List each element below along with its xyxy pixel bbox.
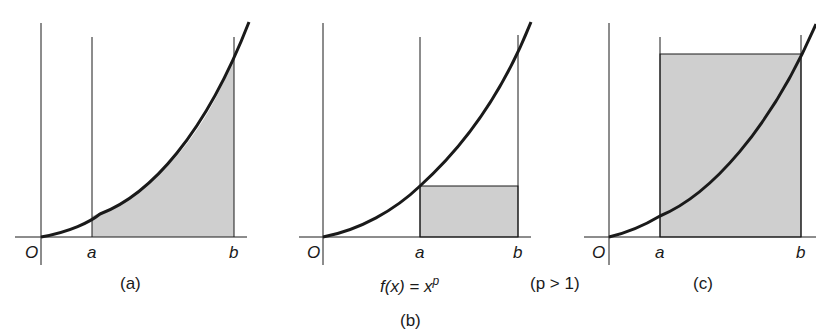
origin-label-c: O <box>592 244 605 261</box>
origin-label-a: O <box>25 244 38 261</box>
shaded-area-under-curve <box>92 56 234 237</box>
function-label: f(x) = xp <box>380 275 439 295</box>
b-label-a: b <box>229 244 238 261</box>
b-label-b: b <box>513 244 522 261</box>
lower-rectangle <box>420 186 518 237</box>
a-label-a: a <box>87 244 96 261</box>
caption-b: (b) <box>400 312 421 329</box>
origin-label-b: O <box>307 244 320 261</box>
function-exponent: p <box>432 274 439 288</box>
upper-rectangle <box>660 54 801 237</box>
caption-c: (c) <box>693 275 713 292</box>
panel-c <box>584 23 816 265</box>
panel-b <box>299 22 531 265</box>
panel-a <box>15 22 249 265</box>
condition-label: (p > 1) <box>530 275 580 292</box>
a-label-b: a <box>415 244 424 261</box>
a-label-c: a <box>655 244 664 261</box>
b-label-c: b <box>796 244 805 261</box>
function-text: f(x) = x <box>380 277 432 296</box>
caption-a: (a) <box>120 275 141 292</box>
